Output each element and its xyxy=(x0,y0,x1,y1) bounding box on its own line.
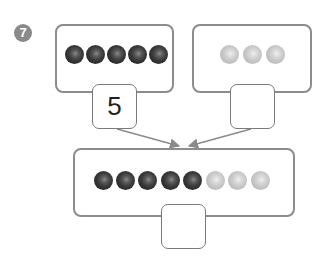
light-bead xyxy=(206,171,225,190)
dark-bead xyxy=(116,171,135,190)
combined-answer-box[interactable] xyxy=(161,204,206,249)
light-bead xyxy=(228,171,247,190)
dark-bead xyxy=(94,171,113,190)
dark-bead xyxy=(183,171,202,190)
light-bead xyxy=(251,171,270,190)
dark-bead xyxy=(138,171,157,190)
dark-bead xyxy=(161,171,180,190)
